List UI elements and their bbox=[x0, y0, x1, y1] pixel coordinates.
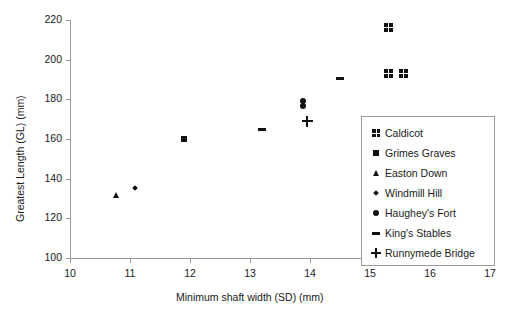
legend-item[interactable]: King's Stables bbox=[368, 223, 490, 243]
marker-small-diamond bbox=[132, 185, 138, 191]
legend-marker bbox=[368, 170, 384, 176]
y-tickmark bbox=[66, 99, 71, 100]
legend-item[interactable]: Windmill Hill bbox=[368, 183, 490, 203]
marker-plus bbox=[302, 116, 313, 127]
legend-marker bbox=[368, 129, 384, 137]
marker-filled-triangle bbox=[113, 192, 119, 198]
y-tick-label: 220 bbox=[26, 13, 62, 25]
marker-small-diamond bbox=[373, 190, 379, 196]
legend-label: Grimes Graves bbox=[385, 147, 456, 159]
y-tick-label: 200 bbox=[26, 53, 62, 65]
legend-marker bbox=[368, 191, 384, 195]
y-tick-label: 180 bbox=[26, 92, 62, 104]
y-tick-label: 120 bbox=[26, 211, 62, 223]
data-point bbox=[399, 69, 408, 78]
legend-label: Caldicot bbox=[385, 127, 423, 139]
data-point bbox=[302, 116, 313, 127]
marker-four-dot-square bbox=[384, 23, 393, 32]
legend-marker bbox=[368, 150, 384, 156]
y-tickmark bbox=[66, 20, 71, 21]
data-point bbox=[258, 128, 266, 131]
x-tickmark bbox=[250, 258, 251, 263]
marker-four-dot-square bbox=[399, 69, 408, 78]
x-axis-title: Minimum shaft width (SD) (mm) bbox=[176, 291, 324, 303]
legend-item[interactable]: Easton Down bbox=[368, 163, 490, 183]
legend-marker bbox=[368, 210, 384, 216]
x-tick-label: 13 bbox=[241, 267, 259, 279]
legend: CaldicotGrimes GravesEaston DownWindmill… bbox=[361, 116, 495, 266]
marker-horizontal-dash bbox=[372, 232, 380, 235]
x-tickmark bbox=[310, 258, 311, 263]
legend-label: Haughey's Fort bbox=[385, 207, 456, 219]
y-tick-label: 140 bbox=[26, 172, 62, 184]
data-point bbox=[384, 23, 393, 32]
marker-horizontal-dash bbox=[336, 77, 344, 80]
x-tick-label: 16 bbox=[421, 267, 439, 279]
y-tickmark bbox=[66, 60, 71, 61]
marker-filled-triangle bbox=[373, 170, 379, 176]
x-tickmark bbox=[190, 258, 191, 263]
y-tick-label: 160 bbox=[26, 132, 62, 144]
y-tick-label: 100 bbox=[26, 251, 62, 263]
y-tickmark bbox=[66, 139, 71, 140]
marker-filled-circle bbox=[373, 210, 379, 216]
x-tickmark bbox=[70, 258, 71, 263]
data-point bbox=[181, 136, 187, 142]
scatter-chart: 100120140160180200220 1011121314151617 G… bbox=[0, 0, 508, 324]
marker-horizontal-dash bbox=[258, 128, 266, 131]
x-tick-label: 10 bbox=[61, 267, 79, 279]
legend-label: King's Stables bbox=[385, 227, 451, 239]
x-tick-label: 17 bbox=[481, 267, 499, 279]
x-tick-label: 12 bbox=[181, 267, 199, 279]
data-point bbox=[133, 186, 137, 190]
data-point bbox=[113, 192, 119, 198]
legend-item[interactable]: Runnymede Bridge bbox=[368, 243, 490, 263]
x-tick-label: 11 bbox=[121, 267, 139, 279]
data-point bbox=[384, 69, 393, 78]
marker-filled-square bbox=[373, 150, 379, 156]
x-tickmark bbox=[130, 258, 131, 263]
legend-label: Windmill Hill bbox=[385, 187, 442, 199]
x-tick-label: 15 bbox=[361, 267, 379, 279]
legend-item[interactable]: Haughey's Fort bbox=[368, 203, 490, 223]
legend-label: Runnymede Bridge bbox=[385, 247, 475, 259]
x-tick-label: 14 bbox=[301, 267, 319, 279]
marker-filled-square bbox=[181, 136, 187, 142]
legend-marker bbox=[368, 232, 384, 235]
y-axis-title: Greatest Length (GL) (mm) bbox=[14, 95, 26, 222]
legend-marker bbox=[368, 248, 384, 258]
marker-four-dot-square bbox=[372, 129, 380, 137]
legend-label: Easton Down bbox=[385, 167, 447, 179]
data-point bbox=[300, 103, 306, 109]
marker-filled-circle bbox=[300, 103, 306, 109]
marker-plus bbox=[371, 248, 381, 258]
data-point bbox=[336, 77, 344, 80]
legend-item[interactable]: Grimes Graves bbox=[368, 143, 490, 163]
y-tickmark bbox=[66, 218, 71, 219]
legend-item[interactable]: Caldicot bbox=[368, 123, 490, 143]
y-tickmark bbox=[66, 179, 71, 180]
marker-four-dot-square bbox=[384, 69, 393, 78]
